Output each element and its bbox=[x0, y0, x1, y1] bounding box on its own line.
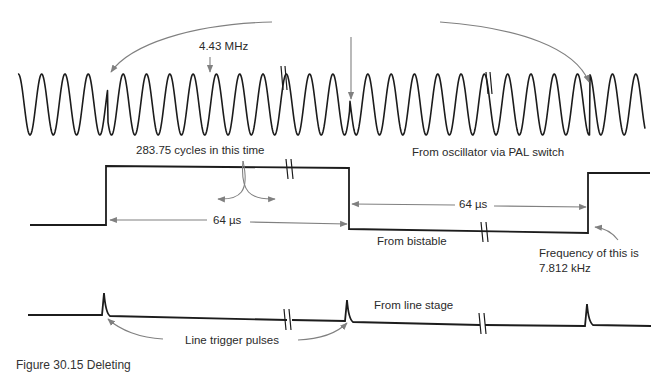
line-trigger-pulse-train bbox=[28, 293, 651, 326]
frequency-arrow bbox=[595, 227, 618, 240]
pulse-break-mark-1 bbox=[284, 309, 291, 330]
line-stage-source-label: From line stage bbox=[374, 299, 453, 312]
period-1-label: 64 µs bbox=[213, 214, 241, 227]
phase-change-arrow-right bbox=[440, 22, 589, 82]
figure-caption: Figure 30.15 Deleting bbox=[16, 358, 131, 372]
frequency-label-line1: Frequency of this is bbox=[539, 247, 639, 260]
pulse-break-mark-2 bbox=[479, 313, 486, 334]
frequency-label-line2: 7.812 kHz bbox=[539, 262, 591, 275]
cycles-count-label: 283.75 cycles in this time bbox=[136, 144, 264, 157]
period-2-arrow-left bbox=[352, 204, 455, 205]
period-2-arrow-right bbox=[494, 206, 586, 207]
oscillator-source-label: From oscillator via PAL switch bbox=[412, 146, 564, 159]
bistable-source-label: From bistable bbox=[377, 235, 447, 248]
period-2-label: 64 µs bbox=[459, 198, 487, 211]
period-1-arrow-right bbox=[250, 222, 347, 224]
line-trigger-pulses-label: Line trigger pulses bbox=[185, 334, 279, 347]
trigger-arrow-left bbox=[108, 319, 163, 339]
bistable-square-wave bbox=[30, 166, 650, 233]
square-break-mark-high bbox=[286, 159, 293, 179]
subcarrier-frequency-label: 4.43 MHz bbox=[199, 40, 248, 53]
subcarrier-sine-wave bbox=[18, 74, 645, 135]
trigger-arrow-right bbox=[298, 323, 347, 340]
